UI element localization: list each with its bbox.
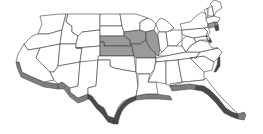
us-map: United States map (3D extruded) <box>0 0 263 134</box>
state-new-york[interactable] <box>180 12 208 30</box>
state-north-dakota[interactable] <box>100 14 122 26</box>
state-florida[interactable] <box>170 78 238 114</box>
us-map-svg <box>0 0 263 134</box>
state-south-dakota[interactable] <box>100 26 124 36</box>
extrusion-florida-tip <box>238 112 246 120</box>
extrusion-florida-west <box>196 85 238 119</box>
state-ohio[interactable] <box>166 30 182 46</box>
state-michigan[interactable] <box>156 18 174 32</box>
